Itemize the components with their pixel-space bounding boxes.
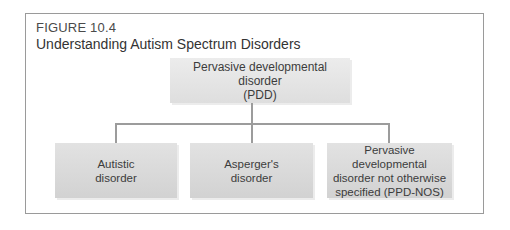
connector-left-drop <box>115 123 117 143</box>
child-node-line2: disorder not otherwise <box>327 171 452 185</box>
figure-number: FIGURE 10.4 <box>36 20 116 35</box>
child-node-line2: disorder <box>95 171 137 185</box>
connector-right-drop <box>388 123 390 143</box>
child-node-pdd-nos: Pervasive developmental disorder not oth… <box>327 143 452 198</box>
child-node-line1: Autistic <box>95 157 137 171</box>
root-node-line1: Pervasive developmental disorder <box>170 60 350 88</box>
child-node-line3: specified (PPD-NOS) <box>327 185 452 199</box>
connector-root-vertical <box>251 103 253 124</box>
root-node-pdd: Pervasive developmental disorder (PDD) <box>170 58 350 103</box>
connector-middle-drop <box>251 123 253 143</box>
root-node-line2: (PDD) <box>170 88 350 102</box>
child-node-line1: Pervasive developmental <box>327 143 452 171</box>
figure-title: Understanding Autism Spectrum Disorders <box>36 36 301 52</box>
child-node-aspergers-disorder: Asperger's disorder <box>190 143 313 198</box>
child-node-line1: Asperger's <box>224 157 279 171</box>
child-node-line2: disorder <box>224 171 279 185</box>
child-node-autistic-disorder: Autistic disorder <box>55 143 177 198</box>
